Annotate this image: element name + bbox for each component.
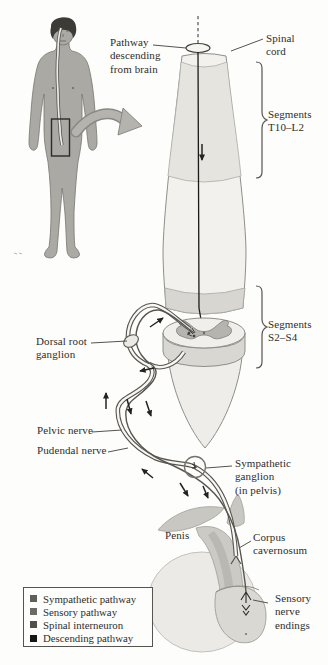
label-line: Spinal [266,32,295,45]
label-line: Penis [165,529,189,542]
legend-label: Spinal interneuron [43,619,123,631]
label-line: ganglion [36,348,87,361]
legend-swatch-interneuron-icon [30,621,37,628]
body-silhouette [29,43,97,258]
legend-item-descending: Descending pathway [30,632,148,645]
label-line: Segments [268,108,312,121]
label-line: (in pelvis) [235,484,291,497]
label-line: cord [266,45,295,58]
label-line: Pelvic nerve [37,424,93,437]
segment-brackets [256,62,267,368]
human-figure [14,17,97,258]
label-spinal-cord: Spinal cord [266,32,295,59]
legend-swatch-descending-icon [30,635,37,642]
nipple-right [72,87,74,89]
label-line: Corpus [253,531,307,544]
label-line: descending [110,49,160,62]
bracket-s2-s4 [256,286,267,368]
legend-item-sympathetic: Sympathetic pathway [30,592,148,605]
label-line: T10–L2 [268,121,312,134]
spinal-cord-upper [163,16,246,335]
label-line: Pudendal nerve [37,444,107,457]
label-pudendal-nerve: Pudendal nerve [37,444,107,457]
label-line: endings [275,619,311,632]
label-line: Dorsal root [36,335,87,348]
legend-item-interneuron: Spinal interneuron [30,618,148,631]
legend-box: Sympathetic pathway Sensory pathway Spin… [23,587,153,647]
label-line: nerve [275,605,311,618]
label-sensory-nerve-endings: Sensory nerve endings [275,592,311,632]
label-segments-t10-l2: Segments T10–L2 [268,108,312,135]
label-sympathetic-ganglion: Sympathetic ganglion (in pelvis) [235,457,291,497]
bracket-t10-l2 [256,62,267,178]
label-line: ganglion [235,470,291,483]
label-corpus-cavernosum: Corpus cavernosum [253,531,307,558]
label-line: Sympathetic [235,457,291,470]
label-line: S2–S4 [268,331,312,344]
nipple-left [52,87,54,89]
legend-item-sensory: Sensory pathway [30,605,148,618]
label-line: cavernosum [253,544,307,557]
genitalia [148,494,266,652]
label-dorsal-root-ganglion: Dorsal root ganglion [36,335,87,362]
glans-dot [245,633,247,635]
label-penis: Penis [165,529,189,542]
label-pathway-descending: Pathway descending from brain [110,36,160,76]
label-line: Sensory [275,592,311,605]
legend-label: Descending pathway [43,632,133,644]
legend-label: Sensory pathway [43,606,117,618]
label-line: from brain [110,63,160,76]
central-canal [203,332,205,334]
legend-label: Sympathetic pathway [43,593,136,605]
label-line: Segments [268,318,312,331]
legend-swatch-sensory-icon [30,608,37,615]
label-line: Pathway [110,36,160,49]
label-segments-s2-s4: Segments S2–S4 [268,318,312,345]
illegible-mark [14,253,22,254]
descending-pathway-cross-section [186,44,210,53]
label-pelvic-nerve: Pelvic nerve [37,424,93,437]
segment-band-t10-l2 [168,62,241,182]
figure-canvas: Pathway descending from brain Spinal cor… [0,0,328,665]
legend-swatch-sympathetic-icon [30,595,37,602]
